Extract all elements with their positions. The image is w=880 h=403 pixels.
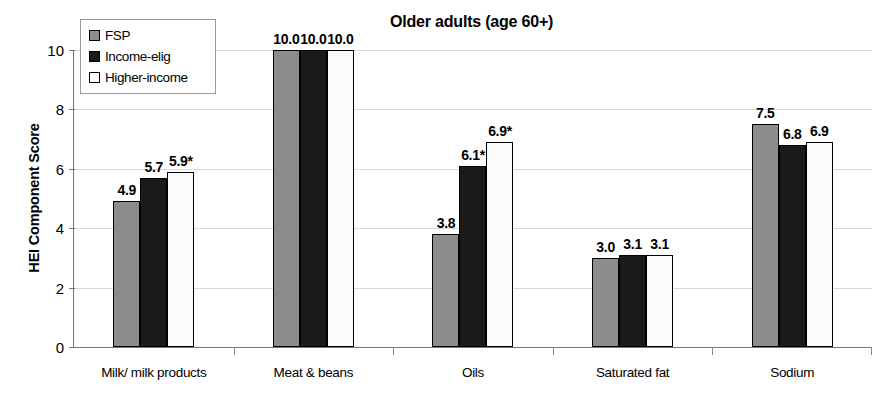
- chart-legend: FSP Income-elig Higher-income: [80, 19, 216, 94]
- y-tick-mark: [69, 347, 75, 348]
- bar-value-label: 6.9*: [488, 123, 512, 139]
- x-axis-separator: [553, 347, 554, 355]
- bar-slot: 5.9*: [167, 50, 194, 347]
- x-axis-separator: [393, 347, 394, 355]
- bar-group-bars: 3.03.13.1: [553, 50, 713, 347]
- legend-item-higher-income[interactable]: Higher-income: [89, 67, 209, 88]
- bar-slot: 7.5: [752, 50, 779, 347]
- bar-slot: 5.7: [140, 50, 167, 347]
- bar[interactable]: 10.0: [273, 50, 300, 347]
- bar[interactable]: 10.0: [300, 50, 327, 347]
- y-axis-title: HEI Component Score: [26, 78, 42, 318]
- bar-value-label: 6.9: [810, 123, 829, 139]
- bar-value-label: 5.7: [145, 159, 164, 175]
- bar-value-label: 10.0: [327, 31, 353, 47]
- bar-group: 3.86.1*6.9*Oils: [393, 50, 553, 347]
- bar[interactable]: 5.7: [140, 178, 167, 347]
- bar-slot: 3.1: [619, 50, 646, 347]
- bar-group-bars: 3.86.1*6.9*: [393, 50, 553, 347]
- x-axis-separator: [234, 347, 235, 355]
- legend-label-fsp: FSP: [105, 28, 130, 43]
- y-tick-label: 0: [56, 339, 64, 356]
- bar-slot: 3.0: [592, 50, 619, 347]
- x-axis-category-label: Saturated fat: [553, 365, 713, 380]
- bar-value-label: 10.0: [273, 31, 299, 47]
- bar-slot: 6.8: [779, 50, 806, 347]
- bar-group-bars: 10.010.010.0: [234, 50, 394, 347]
- bar-slot: 4.9: [113, 50, 140, 347]
- bar-value-label: 6.1*: [461, 147, 485, 163]
- legend-label-higher-income: Higher-income: [105, 70, 188, 85]
- x-axis-category-label: Meat & beans: [234, 365, 394, 380]
- bar[interactable]: 3.1: [646, 255, 673, 347]
- bar-value-label: 7.5: [756, 105, 775, 121]
- bar[interactable]: 7.5: [752, 124, 779, 347]
- bar-group: 4.95.75.9*Milk/ milk products: [74, 50, 234, 347]
- bar[interactable]: 3.1: [619, 255, 646, 347]
- bar-group: 3.03.13.1Saturated fat: [553, 50, 713, 347]
- x-axis-separator: [712, 347, 713, 355]
- legend-item-income-elig[interactable]: Income-elig: [89, 46, 209, 67]
- bar-value-label: 10.0: [300, 31, 326, 47]
- bar[interactable]: 6.9: [806, 142, 833, 347]
- bar-value-label: 3.0: [596, 239, 615, 255]
- x-axis-category-label: Oils: [393, 365, 553, 380]
- bar-slot: 3.1: [646, 50, 673, 347]
- bar-slot: 6.9*: [486, 50, 513, 347]
- bar-group: 7.56.86.9Sodium: [712, 50, 872, 347]
- bar-value-label: 5.9*: [169, 153, 193, 169]
- legend-swatch-icon-income-elig: [89, 51, 100, 62]
- y-tick-label: 10: [47, 42, 64, 59]
- bar-group-bars: 4.95.75.9*: [74, 50, 234, 347]
- bar-slot: 10.0: [273, 50, 300, 347]
- bar-slot: 6.1*: [459, 50, 486, 347]
- bar-value-label: 3.1: [623, 236, 642, 252]
- x-axis-category-label: Milk/ milk products: [74, 365, 234, 380]
- x-axis-separator: [871, 347, 872, 355]
- bar-chart: Older adults (age 60+) HEI Component Sco…: [0, 0, 880, 403]
- bar-group-bars: 7.56.86.9: [712, 50, 872, 347]
- bar-slot: 6.9: [806, 50, 833, 347]
- bar-value-label: 3.1: [650, 236, 669, 252]
- y-tick-label: 8: [56, 101, 64, 118]
- legend-swatch-icon-higher-income: [89, 72, 100, 83]
- y-tick-label: 4: [56, 220, 64, 237]
- chart-title: Older adults (age 60+): [390, 13, 750, 31]
- bar-slot: 10.0: [327, 50, 354, 347]
- bar[interactable]: 10.0: [327, 50, 354, 347]
- y-tick-label: 2: [56, 279, 64, 296]
- legend-item-fsp[interactable]: FSP: [89, 25, 209, 46]
- bar[interactable]: 3.8: [432, 234, 459, 347]
- bar[interactable]: 6.9*: [486, 142, 513, 347]
- plot-area: 02468104.95.75.9*Milk/ milk products10.0…: [73, 50, 872, 348]
- bar-value-label: 6.8: [783, 126, 802, 142]
- bar[interactable]: 6.8: [779, 145, 806, 347]
- bar[interactable]: 5.9*: [167, 172, 194, 347]
- legend-label-income-elig: Income-elig: [105, 49, 170, 64]
- x-axis-category-label: Sodium: [712, 365, 872, 380]
- bar[interactable]: 6.1*: [459, 166, 486, 347]
- bar-group: 10.010.010.0Meat & beans: [234, 50, 394, 347]
- bar-value-label: 4.9: [118, 182, 137, 198]
- y-tick-label: 6: [56, 160, 64, 177]
- bar-slot: 10.0: [300, 50, 327, 347]
- bar[interactable]: 4.9: [113, 201, 140, 347]
- bar[interactable]: 3.0: [592, 258, 619, 347]
- legend-swatch-icon-fsp: [89, 30, 100, 41]
- bar-value-label: 3.8: [437, 215, 456, 231]
- bar-slot: 3.8: [432, 50, 459, 347]
